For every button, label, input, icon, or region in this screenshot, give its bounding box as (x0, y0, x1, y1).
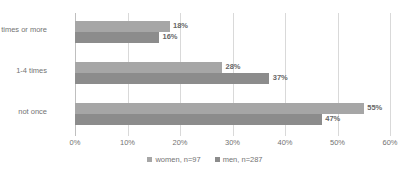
category-label: 6 times or more (0, 25, 47, 35)
bar-women (75, 62, 222, 73)
bar-value-women: 18% (173, 20, 188, 31)
category-label: not once (0, 107, 47, 117)
bar-men (75, 114, 322, 125)
x-axis: 0% 10% 20% 30% 40% 50% 60% (75, 138, 390, 150)
legend-swatch-icon (147, 157, 152, 162)
legend-label: women, n=97 (155, 155, 200, 164)
legend-item-men[interactable]: men, n=287 (215, 155, 263, 164)
chart-legend: women, n=97 men, n=287 (0, 155, 410, 164)
gridline-60 (390, 13, 391, 136)
bar-group: 1-4 times 28% 37% (75, 54, 390, 95)
bar-value-men: 37% (273, 72, 288, 83)
legend-swatch-icon (215, 157, 220, 162)
x-tick-label: 50% (330, 138, 345, 147)
bar-group: 6 times or more 18% 16% (75, 13, 390, 54)
bar-chart: 6 times or more 18% 16% 1-4 times 28% 37… (0, 0, 410, 176)
legend-label: men, n=287 (223, 155, 263, 164)
x-tick-label: 10% (120, 138, 135, 147)
category-label: 1-4 times (0, 66, 47, 76)
bar-value-women: 28% (226, 61, 241, 72)
x-tick-label: 0% (70, 138, 81, 147)
x-tick-label: 40% (277, 138, 292, 147)
bar-women (75, 103, 364, 114)
legend-item-women[interactable]: women, n=97 (147, 155, 200, 164)
x-tick-label: 60% (382, 138, 397, 147)
bar-women (75, 21, 170, 32)
plot-area: 6 times or more 18% 16% 1-4 times 28% 37… (75, 13, 390, 136)
x-tick-label: 20% (172, 138, 187, 147)
bar-group: not once 55% 47% (75, 95, 390, 136)
bar-men (75, 32, 159, 43)
bar-value-men: 47% (325, 113, 340, 124)
bar-value-women: 55% (367, 102, 382, 113)
bar-value-men: 16% (163, 31, 178, 42)
x-tick-label: 30% (225, 138, 240, 147)
bar-men (75, 73, 269, 84)
